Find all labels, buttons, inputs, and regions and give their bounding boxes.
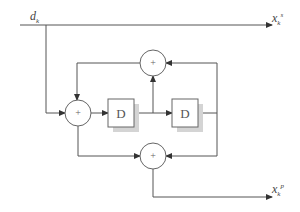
left-adder-plus: + bbox=[68, 108, 88, 118]
feedback-line bbox=[77, 63, 140, 100]
bottom-output-line bbox=[153, 169, 272, 197]
block-diagram bbox=[0, 0, 300, 212]
output-bottom-label: xkp bbox=[272, 183, 284, 198]
delay1-label: D bbox=[108, 107, 134, 120]
delay2-label: D bbox=[172, 107, 198, 120]
bottom-adder-plus: + bbox=[143, 151, 163, 161]
input-to-left-adder bbox=[46, 25, 65, 113]
input-label: dk bbox=[30, 10, 39, 25]
output-top-label: xks bbox=[272, 12, 283, 27]
top-adder-plus: + bbox=[143, 58, 163, 68]
